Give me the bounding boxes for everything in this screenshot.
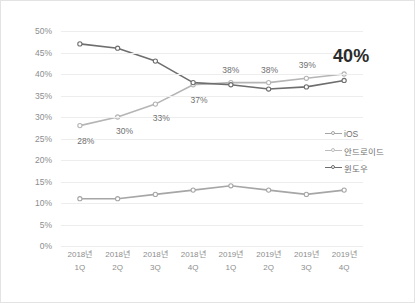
x-tick-quarter: 1Q	[218, 262, 243, 275]
data-label: 30%	[116, 126, 133, 136]
x-tick-year: 2018년	[181, 249, 206, 262]
data-label: 37%	[191, 95, 208, 105]
gridline	[61, 96, 363, 97]
x-tick-quarter: 2Q	[256, 262, 281, 275]
x-tick-year: 2018년	[105, 249, 130, 262]
y-tick-label: 0%	[4, 241, 52, 251]
series-marker	[153, 59, 157, 63]
x-tick-label: 2019년3Q	[294, 249, 319, 274]
series-marker	[267, 87, 271, 91]
series-marker	[153, 192, 157, 196]
data-label: 38%	[261, 65, 278, 75]
legend-marker-icon	[325, 164, 342, 172]
chart-container: 50%45%40%35%30%25%20%15%10%5%0% 28%30%33…	[0, 0, 415, 303]
y-tick-label: 50%	[4, 26, 52, 36]
series-marker	[116, 197, 120, 201]
series-marker	[342, 188, 346, 192]
legend-item[interactable]: 안드로이드	[325, 142, 411, 159]
x-tick-label: 2019년4Q	[332, 249, 357, 274]
x-tick-label: 2018년3Q	[143, 249, 168, 274]
gridline	[61, 160, 363, 161]
y-tick-label: 30%	[4, 112, 52, 122]
x-tick-year: 2018년	[67, 249, 92, 262]
x-tick-quarter: 1Q	[67, 262, 92, 275]
plot-area	[61, 31, 363, 246]
data-label: 39%	[299, 60, 316, 70]
series-marker	[78, 42, 82, 46]
x-tick-label: 2018년1Q	[67, 249, 92, 274]
gridline	[61, 225, 363, 226]
x-tick-label: 2018년2Q	[105, 249, 130, 274]
series-marker	[191, 188, 195, 192]
x-tick-label: 2019년2Q	[256, 249, 281, 274]
series-marker	[78, 197, 82, 201]
legend-label: iOS	[344, 129, 358, 139]
data-label: 38%	[222, 65, 239, 75]
gridline	[61, 246, 363, 247]
series-marker	[229, 184, 233, 188]
gridline	[61, 53, 363, 54]
y-tick-label: 20%	[4, 155, 52, 165]
x-tick-year: 2019년	[218, 249, 243, 262]
gridline	[61, 139, 363, 140]
x-tick-label: 2019년1Q	[218, 249, 243, 274]
series-marker	[304, 76, 308, 80]
legend-label: 윈도우	[344, 162, 368, 174]
series-marker	[342, 78, 346, 82]
y-tick-label: 5%	[4, 220, 52, 230]
series-marker	[267, 81, 271, 85]
x-tick-year: 2019년	[294, 249, 319, 262]
y-tick-label: 45%	[4, 48, 52, 58]
x-tick-quarter: 4Q	[332, 262, 357, 275]
x-tick-year: 2019년	[256, 249, 281, 262]
chart-legend: iOS안드로이드윈도우	[325, 125, 411, 176]
y-tick-label: 15%	[4, 177, 52, 187]
x-tick-year: 2019년	[332, 249, 357, 262]
legend-item[interactable]: iOS	[325, 125, 411, 142]
gridline	[61, 31, 363, 32]
gridline	[61, 203, 363, 204]
y-tick-label: 35%	[4, 91, 52, 101]
legend-marker-icon	[325, 130, 342, 138]
y-tick-label: 40%	[4, 69, 52, 79]
data-label: 33%	[153, 113, 170, 123]
series-marker	[229, 83, 233, 87]
legend-label: 안드로이드	[344, 145, 384, 157]
series-marker	[267, 188, 271, 192]
data-label: 40%	[333, 46, 369, 67]
gridline	[61, 117, 363, 118]
x-tick-label: 2018년4Q	[181, 249, 206, 274]
x-tick-quarter: 3Q	[143, 262, 168, 275]
y-tick-label: 25%	[4, 134, 52, 144]
gridline	[61, 182, 363, 183]
series-line	[80, 186, 344, 199]
x-tick-year: 2018년	[143, 249, 168, 262]
series-marker	[78, 124, 82, 128]
x-tick-quarter: 2Q	[105, 262, 130, 275]
series-marker	[153, 102, 157, 106]
y-tick-label: 10%	[4, 198, 52, 208]
legend-item[interactable]: 윈도우	[325, 159, 411, 176]
series-marker	[304, 85, 308, 89]
x-tick-quarter: 4Q	[181, 262, 206, 275]
data-label: 28%	[77, 136, 94, 146]
series-marker	[191, 81, 195, 85]
series-marker	[116, 46, 120, 50]
legend-marker-icon	[325, 147, 342, 155]
series-marker	[304, 192, 308, 196]
gridline	[61, 74, 363, 75]
x-axis: 2018년1Q2018년2Q2018년3Q2018년4Q2019년1Q2019년…	[61, 249, 363, 291]
x-tick-quarter: 3Q	[294, 262, 319, 275]
